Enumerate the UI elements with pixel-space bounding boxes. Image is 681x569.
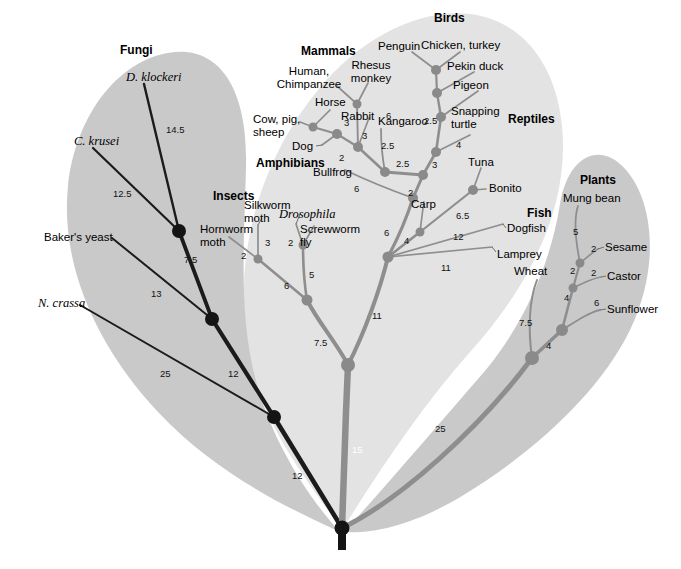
taxon-cow-pig-sheep: Cow, pig, sheep xyxy=(253,113,300,138)
branch-length-silkworm: 3 xyxy=(265,237,270,250)
branch-length-wheat: 7.5 xyxy=(519,317,532,330)
branch-length-fungi-base: 12 xyxy=(292,470,303,483)
taxon-hornworm-moth: Hornworm moth xyxy=(200,223,253,248)
taxon-wheat: Wheat xyxy=(514,265,547,278)
branch-length-bullfrog: 6 xyxy=(354,183,359,196)
branch-length-plant-base: 4 xyxy=(546,340,551,353)
node-mammal-4 xyxy=(309,123,318,132)
taxon-c-krusei: C. krusei xyxy=(74,135,119,148)
branch-length-rabbit: 6 xyxy=(386,110,391,123)
taxon-bonito: Bonito xyxy=(489,182,522,195)
node-fungi-base xyxy=(267,410,281,424)
taxon-sunflower: Sunflower xyxy=(607,303,658,316)
taxon-bakers-yeast: Baker's yeast xyxy=(44,231,113,244)
group-label-reptiles: Reptiles xyxy=(508,113,555,126)
taxon-human-chimp: Human, Chimpanzee xyxy=(273,65,345,90)
branch-length-plant-b: 4 xyxy=(564,292,569,305)
taxon-bullfrog: Bullfrog xyxy=(313,166,352,179)
taxon-lamprey: Lamprey xyxy=(497,248,542,261)
branch-length-fungi-mid: 12 xyxy=(228,368,239,381)
node-insect-base xyxy=(302,295,313,306)
node-turtle-split xyxy=(431,147,441,157)
taxon-carp: Carp xyxy=(411,198,436,211)
group-label-birds: Birds xyxy=(434,12,465,25)
taxon-dog: Dog xyxy=(292,140,313,153)
branch-length-vertebrates: 11 xyxy=(372,310,382,323)
group-label-mammals: Mammals xyxy=(301,45,356,58)
taxon-sesame: Sesame xyxy=(605,241,647,254)
branch-length-dogfish: 12 xyxy=(453,231,464,244)
branch-length-plant-a: 2 xyxy=(570,265,575,278)
taxon-horse: Horse xyxy=(315,96,346,109)
taxon-snapping-turtle: Snapping turtle xyxy=(451,105,500,130)
node-moth xyxy=(254,255,263,264)
branch-length-bakers-yeast: 13 xyxy=(151,288,162,301)
taxon-n-crassa: N. crassa xyxy=(38,297,85,310)
branch-length-snapping-turtle: 4 xyxy=(456,139,461,152)
branch-length-fly-node: 5 xyxy=(309,269,314,282)
branch-length-mammal-a: 2.5 xyxy=(381,140,394,153)
branch-length-n-crassa: 25 xyxy=(160,368,171,381)
branch-length-insects: 7.5 xyxy=(314,337,327,350)
node-carp xyxy=(416,228,425,237)
branch-length-mung-bean: 5 xyxy=(573,226,578,239)
branch-length-tetrapod: 2 xyxy=(408,187,413,200)
branch-length-dog: 2 xyxy=(339,152,344,165)
branch-length-drosophila: 2 xyxy=(288,237,293,250)
branch-length-amniote: 3 xyxy=(432,159,437,172)
root-stem xyxy=(338,528,346,550)
branch-length-tuna: 6.5 xyxy=(456,210,469,223)
node-amniote xyxy=(418,170,428,180)
node-vert-base xyxy=(383,252,394,263)
branch-length-vert-6: 6 xyxy=(384,227,389,240)
branch-length-horse: 3 xyxy=(362,130,367,143)
node-plant-base xyxy=(525,351,539,365)
node-mammal-1 xyxy=(380,167,390,177)
taxon-d-klockeri: D. klockeri xyxy=(126,71,182,84)
branch-length-birds: 2.5 xyxy=(424,115,437,128)
node-fungi-mid xyxy=(205,312,219,326)
figure-canvas: Fungi Mammals Birds Reptiles Fish Plants… xyxy=(0,0,681,569)
node-mammal-3 xyxy=(332,129,342,139)
node-bird-2 xyxy=(432,88,442,98)
branch-length-sunflower: 6 xyxy=(594,297,599,310)
taxon-penguin: Penguin xyxy=(378,40,420,53)
branch-length-c-krusei: 12.5 xyxy=(113,188,132,201)
taxon-tuna: Tuna xyxy=(468,156,494,169)
node-mammal-2 xyxy=(353,142,363,152)
branch-length-fungi-top: 7.5 xyxy=(184,254,197,267)
branch-length-carp: 4 xyxy=(404,235,409,248)
node-bird-1 xyxy=(436,112,446,122)
node-animal-base xyxy=(341,358,355,372)
taxon-mung-bean: Mung bean xyxy=(563,192,621,205)
node-fungi-top xyxy=(172,224,186,238)
taxon-screwworm-fly: Screwworm fly xyxy=(300,223,360,248)
node-plant-sesame xyxy=(576,259,585,268)
branch-length-plants-root: 25 xyxy=(435,423,446,436)
taxon-chicken-turkey: Chicken, turkey xyxy=(421,39,500,52)
branch-length-moth-node: 6 xyxy=(284,280,289,293)
taxon-pekin-duck: Pekin duck xyxy=(447,60,503,73)
taxon-dogfish: Dogfish xyxy=(507,222,546,235)
branch-length-trunk: 15 xyxy=(352,444,363,457)
group-label-fungi: Fungi xyxy=(120,44,153,57)
branch-length-lamprey: 11 xyxy=(441,262,451,275)
branch-length-hornworm: 2 xyxy=(241,250,246,263)
branch-length-castor: 2 xyxy=(591,267,596,280)
node-bird-3 xyxy=(431,65,441,75)
node-plant-sun xyxy=(556,324,568,336)
taxon-pigeon: Pigeon xyxy=(453,79,489,92)
group-label-fish: Fish xyxy=(527,207,552,220)
branch-length-cow-pig-sheep: 3 xyxy=(344,117,349,130)
node-tuna xyxy=(468,185,478,195)
branch-length-d-klockeri: 14.5 xyxy=(166,124,185,137)
taxon-drosophila: Drosophila xyxy=(279,208,336,221)
group-label-plants: Plants xyxy=(580,174,616,187)
branch-length-sesame: 2 xyxy=(591,243,596,256)
taxon-rhesus-monkey: Rhesus monkey xyxy=(345,59,397,84)
node-mammal-5 xyxy=(353,100,362,109)
taxon-castor: Castor xyxy=(607,270,641,283)
node-plant-castor xyxy=(569,284,578,293)
branch-length-mammal-b: 2.5 xyxy=(396,158,409,171)
